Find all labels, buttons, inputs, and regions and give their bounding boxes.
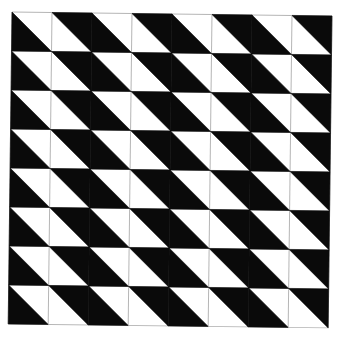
triangle-grid [0, 0, 338, 337]
rotated-grid-group [8, 12, 332, 328]
tessellation-figure [0, 0, 338, 337]
